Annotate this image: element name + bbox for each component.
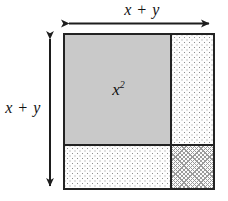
region-y-squared	[172, 146, 213, 188]
top-dimension-arrow-icon	[60, 15, 218, 32]
region-x-squared: x2	[65, 35, 172, 146]
left-dimension-label: x + y	[0, 100, 46, 116]
left-dimension-arrow-icon	[41, 30, 59, 195]
region-x-squared-label-base: x	[112, 80, 120, 99]
outer-square: x2	[63, 33, 215, 190]
region-x-squared-label-exponent: 2	[120, 79, 125, 90]
area-model-diagram: x + y x + y x2	[0, 0, 228, 201]
region-xy-top-right	[172, 35, 213, 146]
region-xy-bottom-left	[65, 146, 172, 188]
region-x-squared-label: x2	[65, 81, 172, 98]
